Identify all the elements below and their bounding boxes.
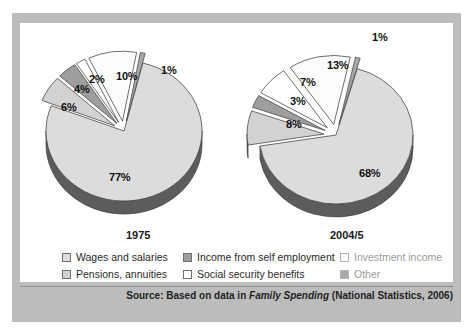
slice-label-1975-investment: 10% (116, 70, 137, 82)
legend-swatch-icon (183, 270, 192, 279)
legend-item[interactable]: Social security benefits (183, 267, 335, 282)
source-divider (20, 286, 453, 287)
slice-label-2004-pensions: 8% (286, 118, 302, 130)
legend-swatch-icon (340, 253, 349, 262)
legend-item[interactable]: Pensions, annuities (62, 267, 168, 282)
source-note: Source: Based on data in Family Spending… (20, 290, 453, 301)
legend-item[interactable]: Other (340, 267, 442, 282)
legend-swatch-icon (62, 253, 71, 262)
legend-item[interactable]: Income from self employment (183, 250, 335, 265)
legend-item[interactable]: Investment income (340, 250, 442, 265)
legend-label: Social security benefits (197, 269, 304, 280)
legend-swatch-icon (62, 270, 71, 279)
legend-item[interactable]: Wages and salaries (62, 250, 168, 265)
legend-label: Pensions, annuities (76, 269, 167, 280)
legend: Wages and salariesPensions, annuities In… (40, 250, 460, 282)
chart-stage: 77% 6% 4% 2% 10% 1% 68% 8% 3% 7% 13% 1% (20, 23, 453, 282)
axis-label-1975: 1975 (126, 229, 150, 241)
slice-label-1975-other: 1% (161, 64, 177, 76)
legend-label: Income from self employment (197, 252, 335, 263)
legend-label: Wages and salaries (76, 252, 168, 263)
slice-label-1975-socsec: 2% (89, 73, 105, 85)
legend-swatch-icon (183, 253, 192, 262)
figure-root: 77% 6% 4% 2% 10% 1% 68% 8% 3% 7% 13% 1% … (0, 0, 473, 335)
slice-label-2004-wages: 68% (359, 167, 380, 179)
slice-label-2004-socsec: 7% (300, 76, 316, 88)
legend-label: Investment income (354, 252, 442, 263)
axis-label-2004-5: 2004/5 (330, 229, 364, 241)
slice-label-1975-wages: 77% (109, 171, 130, 183)
pie-chart-2004-5 (226, 23, 441, 223)
legend-column-1: Wages and salariesPensions, annuities (62, 250, 168, 284)
legend-swatch-icon (340, 270, 349, 279)
slice-label-2004-other: 1% (372, 31, 388, 43)
source-suffix: (National Statistics, 2006) (329, 290, 453, 301)
legend-label: Other (354, 269, 380, 280)
slice-label-2004-selfemp: 3% (290, 95, 306, 107)
legend-column-3: Investment incomeOther (340, 250, 442, 284)
slice-label-1975-pensions: 6% (61, 101, 77, 113)
chart-panel: 77% 6% 4% 2% 10% 1% 68% 8% 3% 7% 13% 1% … (20, 23, 453, 282)
slice-label-2004-investment: 13% (327, 59, 348, 71)
legend-column-2: Income from self employmentSocial securi… (183, 250, 335, 284)
pie-chart-1975 (24, 23, 224, 223)
source-publication: Family Spending (249, 290, 329, 301)
source-prefix: Source: Based on data in (126, 290, 249, 301)
slice-label-1975-selfemp: 4% (74, 83, 90, 95)
